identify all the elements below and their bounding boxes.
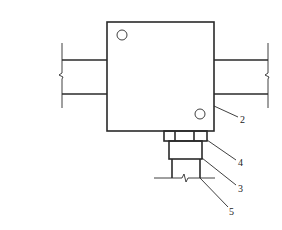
threaded-body (169, 141, 202, 159)
leader-2 (214, 106, 238, 117)
main-box (107, 22, 214, 131)
callout-label-3: 3 (238, 183, 243, 194)
hole-top-left-icon (117, 30, 127, 40)
break-line-left-icon (59, 43, 63, 108)
right-beam (214, 43, 269, 108)
leader-5 (200, 178, 228, 207)
technical-drawing: 2 4 3 5 (0, 0, 282, 230)
callout-label-5: 5 (229, 206, 234, 217)
nut-ring (164, 131, 207, 141)
stem-pipe (154, 159, 215, 182)
break-line-right-icon (265, 43, 269, 108)
hole-bottom-right-icon (195, 109, 205, 119)
callout-label-4: 4 (238, 157, 243, 168)
callout-label-2: 2 (240, 114, 245, 125)
leader-4 (207, 140, 236, 160)
ground-break-line-icon (154, 174, 215, 182)
leader-3 (202, 158, 236, 185)
left-beam (59, 43, 107, 108)
diagram-canvas: 2 4 3 5 (0, 0, 282, 230)
